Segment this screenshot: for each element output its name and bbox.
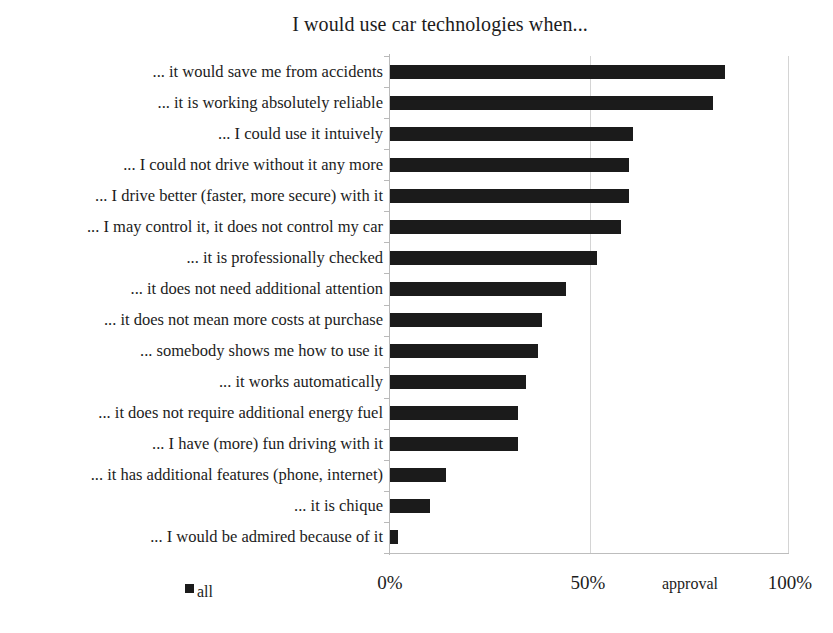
tick-mark xyxy=(384,336,390,337)
tick-mark xyxy=(384,305,390,306)
tick-mark xyxy=(384,242,390,243)
category-label: ... it does not mean more costs at purch… xyxy=(0,310,383,329)
category-label: ... I have (more) fun driving with it xyxy=(0,434,383,453)
category-label: ... it works automatically xyxy=(0,372,383,391)
category-label: ... I could use it intuively xyxy=(0,124,383,143)
bar xyxy=(390,530,398,544)
category-label: ... it does not need additional attentio… xyxy=(0,279,383,298)
category-label: ... I could not drive without it any mor… xyxy=(0,155,383,174)
bar xyxy=(390,65,725,79)
bar xyxy=(390,375,526,389)
bar xyxy=(390,251,597,265)
tick-mark xyxy=(384,211,390,212)
tick-mark xyxy=(384,553,390,554)
bar-chart: I would use car technologies when... ...… xyxy=(0,0,833,633)
bar xyxy=(390,499,430,513)
xtick-label-0: 0% xyxy=(360,572,420,594)
xtick-label-100: 100% xyxy=(754,572,826,594)
tick-mark xyxy=(384,149,390,150)
legend-label-all: all xyxy=(197,583,213,600)
bar xyxy=(390,437,518,451)
category-label: ... it would save me from accidents xyxy=(0,62,383,81)
chart-legend: all xyxy=(185,580,213,597)
tick-mark xyxy=(384,273,390,274)
tick-mark xyxy=(384,56,390,57)
category-label: ... it is working absolutely reliable xyxy=(0,93,383,112)
category-label: ... it does not require additional energ… xyxy=(0,403,383,422)
tick-mark xyxy=(384,367,390,368)
tick-mark xyxy=(384,522,390,523)
value-axis-line xyxy=(389,553,789,554)
tick-mark xyxy=(384,460,390,461)
tick-mark xyxy=(384,118,390,119)
legend-swatch-all xyxy=(185,584,194,593)
category-label: ... somebody shows me how to use it xyxy=(0,341,383,360)
bar xyxy=(390,189,629,203)
bar xyxy=(390,344,538,358)
tick-mark xyxy=(384,429,390,430)
category-label: ... I may control it, it does not contro… xyxy=(0,217,383,236)
bar xyxy=(390,220,621,234)
category-axis-labels: ... it would save me from accidents... i… xyxy=(0,56,383,553)
tick-mark xyxy=(384,491,390,492)
tick-mark xyxy=(384,180,390,181)
category-label: ... it has additional features (phone, i… xyxy=(0,465,383,484)
category-label: ... I drive better (faster, more secure)… xyxy=(0,186,383,205)
bar xyxy=(390,313,542,327)
xtick-label-50: 50% xyxy=(558,572,618,594)
gridline-100-percent xyxy=(788,56,789,553)
chart-title: I would use car technologies when... xyxy=(140,12,740,36)
tick-mark xyxy=(384,398,390,399)
bar xyxy=(390,282,566,296)
value-axis-title: approval xyxy=(645,574,735,593)
category-label: ... I would be admired because of it xyxy=(0,527,383,546)
bar xyxy=(390,96,713,110)
bar xyxy=(390,406,518,420)
bar xyxy=(390,158,629,172)
category-label: ... it is professionally checked xyxy=(0,248,383,267)
bar xyxy=(390,127,633,141)
category-label: ... it is chique xyxy=(0,496,383,515)
tick-mark xyxy=(384,87,390,88)
plot-area xyxy=(390,56,789,553)
bar xyxy=(390,468,446,482)
